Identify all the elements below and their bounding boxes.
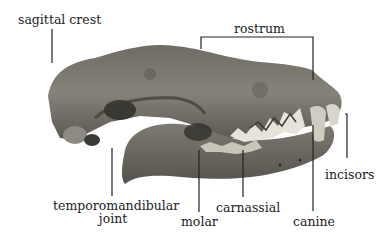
incisor-teeth [326,104,340,126]
skull-diagram: sagittal crest rostrum incisors temporom… [0,0,389,244]
label-temporomandibular-joint: temporomandibular joint [53,199,173,225]
label-canine: canine [293,215,335,228]
label-molar: molar [181,215,218,228]
label-incisors: incisors [325,168,374,181]
label-sagittal-crest: sagittal crest [18,13,101,26]
label-carnassial: carnassial [216,201,280,214]
label-rostrum: rostrum [234,22,285,35]
label-tmj-line2: joint [53,212,173,225]
